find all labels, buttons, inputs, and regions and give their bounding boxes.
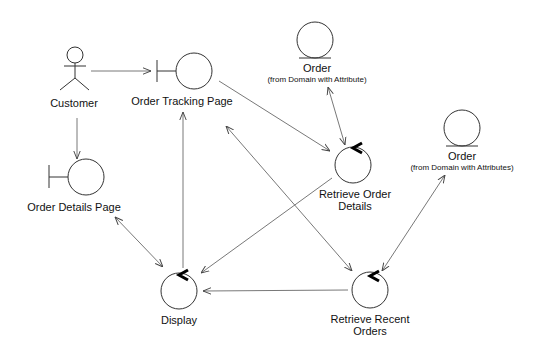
node-sublabel-order-2: (from Domain with Attributes) (410, 163, 513, 173)
node-label-display: Display (161, 314, 197, 326)
actor-icon (60, 47, 89, 90)
entity-icon (297, 22, 333, 58)
entity-icon (444, 110, 480, 146)
node-label-retrieve-recent-orders-line2: Orders (353, 325, 387, 337)
control-icon (352, 271, 388, 308)
node-label-order-details-page: Order Details Page (27, 201, 121, 213)
node-label-order-tracking-page: Order Tracking Page (131, 95, 233, 107)
node-label-order-1: Order (303, 62, 331, 74)
edge-order1-retrieve-details (328, 87, 345, 145)
control-icon (335, 143, 371, 183)
boundary-icon (49, 159, 104, 195)
edge-order2-retrieve-recent (382, 175, 445, 271)
edge-tracking-to-retrieve-details (219, 81, 330, 151)
node-label-order-2: Order (448, 150, 476, 162)
node-label-retrieve-order-details-line1: Retrieve Order (319, 188, 391, 200)
node-label-retrieve-order-details-line2: Details (338, 200, 372, 212)
edge-retrieve-recent-to-display (203, 290, 348, 291)
boundary-icon (157, 53, 212, 89)
control-icon (161, 270, 197, 309)
node-label-customer: Customer (50, 97, 98, 109)
node-label-retrieve-recent-orders-line1: Retrieve Recent (331, 313, 410, 325)
edge-details-page-display (115, 217, 163, 267)
node-sublabel-order-1: (from Domain with Attribute) (267, 75, 366, 85)
